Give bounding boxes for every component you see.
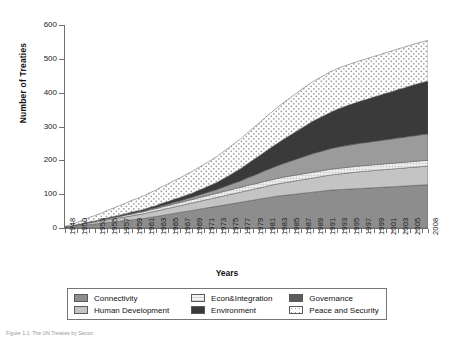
y-axis-tick-label: 500 xyxy=(0,54,62,64)
x-axis-tick-mark xyxy=(234,229,235,233)
legend-item-peace-and-security: Peace and Security xyxy=(289,304,380,316)
y-axis-tick-mark xyxy=(59,160,64,161)
x-axis-tick-label: 1967 xyxy=(183,218,192,235)
x-axis-tick-label: 1979 xyxy=(256,218,265,235)
x-axis-tick-mark xyxy=(192,229,193,233)
x-axis-tick-label: 1985 xyxy=(292,218,301,235)
x-axis-tick-mark xyxy=(331,229,332,233)
y-axis-tick-label: 100 xyxy=(0,189,62,199)
x-axis-tick-mark xyxy=(343,229,344,233)
x-axis-tick-label: 1977 xyxy=(243,218,252,235)
x-axis-tick-mark xyxy=(210,229,211,233)
x-axis-tick-label: 1981 xyxy=(268,218,277,235)
x-axis-tick-mark xyxy=(101,229,102,233)
x-axis-tick-label: 1961 xyxy=(147,218,156,235)
legend-swatch-icon xyxy=(289,306,303,314)
x-axis-tick-mark xyxy=(198,229,199,233)
x-axis-tick-mark xyxy=(132,229,133,233)
legend-item-connectivity: Connectivity xyxy=(74,292,191,304)
x-axis-tick-mark xyxy=(428,229,429,233)
x-axis-tick-label: 1989 xyxy=(316,218,325,235)
y-axis-tick-label: 200 xyxy=(0,155,62,165)
legend-item-environment: Environment xyxy=(191,304,289,316)
x-axis-tick-label: 2001 xyxy=(389,218,398,235)
x-axis-tick-label: 1983 xyxy=(280,218,289,235)
legend-label: Governance xyxy=(309,294,353,303)
x-axis-tick-mark xyxy=(392,229,393,233)
y-axis-title: Number of Treaties xyxy=(18,13,28,153)
legend-label: Econ&Integration xyxy=(211,294,272,303)
x-axis-tick-mark xyxy=(247,229,248,233)
x-axis-tick-label: 1957 xyxy=(122,218,131,235)
x-axis-tick-mark xyxy=(83,229,84,233)
x-axis-tick-mark xyxy=(265,229,266,233)
x-axis-tick-mark xyxy=(295,229,296,233)
area-series-group xyxy=(65,41,428,228)
x-axis-tick-label: 1997 xyxy=(364,218,373,235)
y-axis-tick-mark xyxy=(59,194,64,195)
x-axis-tick-mark xyxy=(416,229,417,233)
x-axis-tick-mark xyxy=(361,229,362,233)
x-axis-tick-label: 1987 xyxy=(304,218,313,235)
legend-swatch-icon xyxy=(289,294,303,302)
x-axis-tick-mark xyxy=(253,229,254,233)
x-axis-tick-mark xyxy=(240,229,241,233)
x-axis-tick-mark xyxy=(386,229,387,233)
x-axis-tick-mark xyxy=(150,229,151,233)
x-axis-tick-label: 1991 xyxy=(328,218,337,235)
x-axis-tick-mark xyxy=(107,229,108,233)
x-axis-tick-mark xyxy=(144,229,145,233)
x-axis-tick-mark xyxy=(174,229,175,233)
x-axis-tick-mark xyxy=(89,229,90,233)
legend-item-governance: Governance xyxy=(289,292,380,304)
x-axis-tick-mark xyxy=(95,229,96,233)
x-axis-tick-label: 1969 xyxy=(195,218,204,235)
x-axis-tick-mark xyxy=(301,229,302,233)
figure-caption: Figure 1.1: The UN Treaties by Sector xyxy=(6,330,306,336)
x-axis-tick-mark xyxy=(325,229,326,233)
legend-row: Human Development Environment Peace and … xyxy=(74,304,380,316)
x-axis-tick-mark xyxy=(337,229,338,233)
x-axis-tick-mark xyxy=(204,229,205,233)
x-axis-tick-mark xyxy=(307,229,308,233)
x-axis-tick-label: 1950 xyxy=(80,218,89,235)
x-axis-tick-mark xyxy=(77,229,78,233)
x-axis-tick-label: 2008 xyxy=(431,218,440,235)
x-axis-tick-label: 1955 xyxy=(110,218,119,235)
x-axis-tick-mark xyxy=(119,229,120,233)
x-axis-tick-mark xyxy=(259,229,260,233)
x-axis-tick-mark xyxy=(216,229,217,233)
y-axis-tick-label: 300 xyxy=(0,122,62,132)
x-axis-tick-mark xyxy=(180,229,181,233)
figure-stacked-area-chart: Number of Treaties 0100200300400500600 xyxy=(0,0,454,342)
x-axis-tick-mark xyxy=(277,229,278,233)
y-axis-tick-mark xyxy=(59,25,64,26)
x-axis-tick-label: 1948 xyxy=(68,218,77,235)
x-axis-tick-mark xyxy=(313,229,314,233)
x-axis-tick-mark xyxy=(162,229,163,233)
x-axis-tick-label: 1975 xyxy=(231,218,240,235)
y-axis-tick-mark xyxy=(59,228,64,229)
x-axis-tick-mark xyxy=(410,229,411,233)
y-axis-tick-mark xyxy=(59,59,64,60)
x-axis-tick-label: 1995 xyxy=(352,218,361,235)
x-axis-tick-mark xyxy=(398,229,399,233)
x-axis-tick-mark xyxy=(422,229,423,233)
x-axis-tick-label: 1971 xyxy=(207,218,216,235)
x-axis-tick-mark xyxy=(355,229,356,233)
legend-label: Peace and Security xyxy=(309,306,378,315)
x-axis-tick-mark xyxy=(71,229,72,233)
x-axis-tick-mark xyxy=(349,229,350,233)
x-axis-tick-label: 1999 xyxy=(377,218,386,235)
chart-legend: Connectivity Econ&Integration Governance… xyxy=(67,288,387,320)
y-axis-tick-mark xyxy=(59,93,64,94)
x-axis-tick-label: 1993 xyxy=(340,218,349,235)
x-axis-tick-label: 1973 xyxy=(219,218,228,235)
x-axis-tick-mark xyxy=(271,229,272,233)
x-axis-tick-mark xyxy=(319,229,320,233)
stacked-area-svg xyxy=(65,25,428,228)
x-axis-tick-mark xyxy=(126,229,127,233)
legend-label: Environment xyxy=(211,306,256,315)
x-axis-tick-mark xyxy=(186,229,187,233)
x-axis-tick-mark xyxy=(156,229,157,233)
